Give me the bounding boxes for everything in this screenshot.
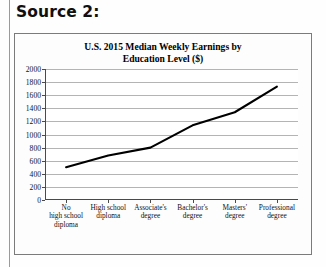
chart-container: U.S. 2015 Median Weekly Earnings by Educ… xyxy=(14,33,312,255)
y-tick-label: 1000 xyxy=(26,130,41,139)
y-tick-label: 1600 xyxy=(26,91,41,100)
document-page: Source 2: U.S. 2015 Median Weekly Earnin… xyxy=(0,0,326,267)
y-tick-label: 1800 xyxy=(26,78,41,87)
y-tick-label: 1400 xyxy=(26,104,41,113)
page-title: Source 2: xyxy=(16,3,99,21)
x-tick-label-line: degree xyxy=(250,212,304,220)
earnings-line-series xyxy=(45,69,298,200)
y-tick-label: 1200 xyxy=(26,117,41,126)
y-tick-label: 600 xyxy=(30,156,41,165)
y-tick-label: 2000 xyxy=(26,65,41,74)
document-left-rule xyxy=(9,0,10,267)
series-polyline xyxy=(66,87,277,168)
chart-title-line-2: Education Level ($) xyxy=(15,53,311,65)
chart-title: U.S. 2015 Median Weekly Earnings by Educ… xyxy=(15,41,311,64)
y-tick-label: 200 xyxy=(30,182,41,191)
plot-area: 0200400600800100012001400160018002000 No… xyxy=(45,69,298,200)
y-tick-label: 800 xyxy=(30,143,41,152)
y-tick-label: 400 xyxy=(30,169,41,178)
x-tick-label: Professionaldegree xyxy=(250,204,304,221)
x-tick-label-line: diploma xyxy=(39,221,93,229)
y-tick-mark xyxy=(42,200,45,201)
chart-title-line-1: U.S. 2015 Median Weekly Earnings by xyxy=(15,41,311,53)
